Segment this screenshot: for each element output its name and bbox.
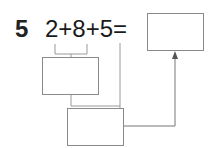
second-sum-box[interactable] (67, 108, 124, 146)
answer-box[interactable] (147, 13, 204, 51)
first-sum-box[interactable] (42, 57, 99, 95)
arrowhead-icon (172, 51, 178, 59)
